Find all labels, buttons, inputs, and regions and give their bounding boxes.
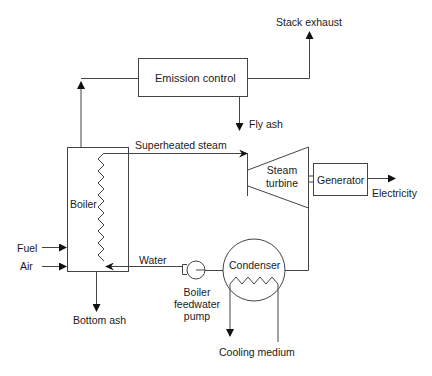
pump-label-3: pump: [170, 310, 224, 322]
pump-label-1: Boiler: [170, 286, 224, 298]
water-label: Water: [139, 254, 167, 266]
generator-label: Generator: [317, 174, 364, 186]
fuel-label: Fuel: [17, 242, 37, 254]
turbine-shaft: [309, 176, 314, 182]
steam-turbine-label-2: turbine: [264, 177, 300, 189]
turbine-exhaust-line: [285, 208, 309, 271]
steam-turbine-label-1: Steam: [264, 164, 300, 176]
boiler-coil: [98, 153, 104, 261]
bottom-ash-label: Bottom ash: [73, 314, 126, 326]
cooling-medium-label: Cooling medium: [219, 346, 295, 358]
stack-exhaust-label: Stack exhaust: [276, 16, 342, 28]
emission-control-label: Emission control: [155, 72, 236, 84]
condenser-label: Condenser: [229, 259, 280, 271]
air-label: Air: [20, 260, 33, 272]
stack-exhaust-arrow: [247, 32, 310, 79]
boiler-label: Boiler: [70, 198, 97, 210]
condenser-coil: [230, 277, 278, 284]
superheated-steam-label: Superheated steam: [135, 139, 227, 151]
pump-label-2: feedwater: [170, 298, 224, 310]
electricity-label: Electricity: [372, 187, 417, 199]
fly-ash-label: Fly ash: [249, 118, 283, 130]
pump-outlet-nozzle: [183, 265, 188, 275]
